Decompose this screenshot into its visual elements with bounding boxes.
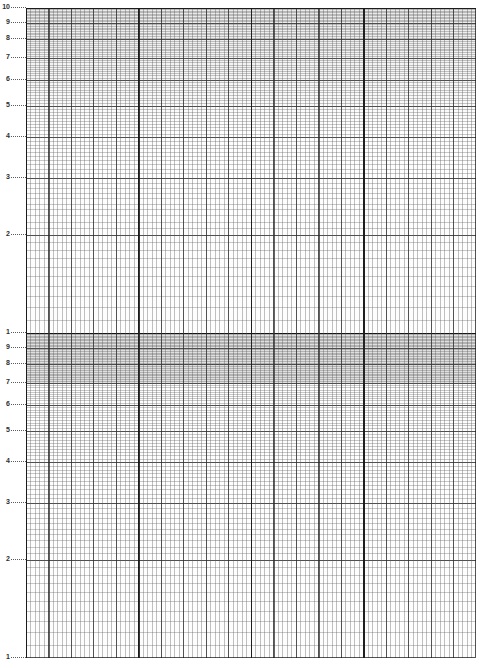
- y-axis-tick-leader: [11, 105, 26, 106]
- y-axis-tick-leader: [11, 430, 26, 431]
- y-axis-tick-label: 4: [6, 457, 10, 464]
- y-axis-tick-leader: [11, 657, 26, 658]
- y-axis-tick-leader: [11, 79, 26, 80]
- grid-area: [26, 8, 476, 658]
- y-axis-tick-label: 8: [6, 34, 10, 41]
- y-axis-tick-leader: [11, 7, 26, 8]
- y-axis-tick-label: 6: [6, 75, 10, 82]
- y-axis-tick-label: 9: [6, 343, 10, 350]
- y-axis-tick-label: 1: [6, 653, 10, 660]
- y-axis-tick-leader: [11, 57, 26, 58]
- y-axis-tick-label: 5: [6, 101, 10, 108]
- y-axis-tick-label: 7: [6, 53, 10, 60]
- y-axis-tick-leader: [11, 559, 26, 560]
- y-axis-tick-label: 2: [6, 555, 10, 562]
- graph-paper-sheet: 10987654321987654321: [0, 0, 484, 668]
- y-axis-tick-label: 7: [6, 378, 10, 385]
- y-axis-tick-leader: [11, 347, 26, 348]
- y-axis-tick-label: 6: [6, 400, 10, 407]
- y-axis-tick-leader: [11, 404, 26, 405]
- y-axis-tick-leader: [11, 382, 26, 383]
- y-axis-tick-label: 3: [6, 173, 10, 180]
- y-axis-tick-leader: [11, 234, 26, 235]
- y-axis-tick-leader: [11, 461, 26, 462]
- y-axis-tick-label: 4: [6, 132, 10, 139]
- y-axis-tick-label: 5: [6, 426, 10, 433]
- y-axis-tick-label: 3: [6, 498, 10, 505]
- y-axis-label-column: 10987654321987654321: [0, 0, 26, 668]
- y-axis-tick-label: 1: [6, 328, 10, 335]
- y-axis-tick-label: 8: [6, 359, 10, 366]
- y-axis-tick-leader: [11, 22, 26, 23]
- y-axis-tick-label: 2: [6, 230, 10, 237]
- vertical-heavy-gridlines: [26, 8, 476, 658]
- y-axis-tick-leader: [11, 363, 26, 364]
- y-axis-tick-leader: [11, 502, 26, 503]
- y-axis-tick-leader: [11, 177, 26, 178]
- y-axis-tick-label: 10: [2, 3, 10, 10]
- y-axis-tick-label: 9: [6, 18, 10, 25]
- y-axis-tick-leader: [11, 136, 26, 137]
- y-axis-tick-leader: [11, 38, 26, 39]
- y-axis-tick-leader: [11, 332, 26, 333]
